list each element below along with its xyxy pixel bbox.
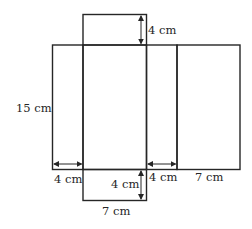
bottom-flap-height-label: 4 cm <box>111 177 139 191</box>
height-label: 15 cm <box>16 101 52 115</box>
right-side-face <box>147 45 178 170</box>
bottom-flap-width-label: 7 cm <box>102 204 130 218</box>
right-narrow-width-label: 4 cm <box>149 170 177 184</box>
top-flap-height-label: 4 cm <box>148 23 176 37</box>
left-width-label: 4 cm <box>54 172 82 186</box>
prism-net-diagram: 4 cm 15 cm 4 cm 4 cm 4 cm 7 cm 7 cm <box>0 0 252 229</box>
front-face <box>83 45 147 170</box>
top-flap-face <box>83 15 147 46</box>
right-wide-width-label: 7 cm <box>195 170 223 184</box>
back-face <box>177 45 240 170</box>
left-side-face <box>53 45 84 170</box>
